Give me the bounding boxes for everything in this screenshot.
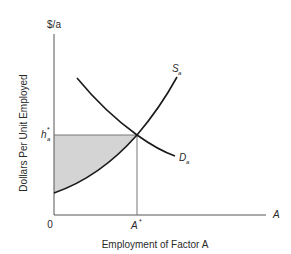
- svg-text:a: a: [186, 159, 190, 165]
- origin-label: 0: [47, 219, 53, 230]
- supply-curve-label: S a: [172, 63, 182, 76]
- svg-text:*: *: [139, 218, 142, 225]
- shaded-surplus-area: [54, 135, 137, 193]
- x-axis-symbol: A: [272, 209, 280, 220]
- equilibrium-quantity-label: A *: [130, 218, 142, 231]
- factor-market-diagram: $/a Dollars Per Unit Employed 0 h a * A …: [0, 0, 291, 254]
- y-axis-label: Dollars Per Unit Employed: [18, 74, 29, 191]
- svg-text:a: a: [178, 70, 182, 76]
- y-axis-unit-label: $/a: [47, 19, 61, 30]
- svg-text:A: A: [130, 220, 138, 231]
- svg-text:*: *: [47, 126, 50, 133]
- equilibrium-price-label: h a *: [41, 126, 51, 142]
- x-axis-label: Employment of Factor A: [102, 239, 209, 250]
- svg-text:a: a: [47, 136, 51, 142]
- demand-curve-label: D a: [179, 152, 190, 165]
